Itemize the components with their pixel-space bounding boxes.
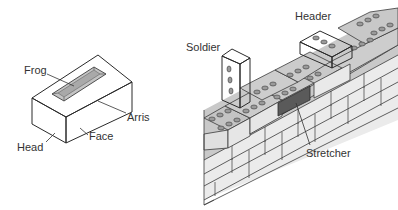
brick-diagram: Frog Arris Face Head [0,0,398,210]
face-leader [80,128,88,135]
arris-leader [98,101,126,113]
frog-leader [47,74,74,86]
label-frog: Frog [24,64,47,76]
single-brick: Frog Arris Face Head [17,55,150,153]
frog-recess [52,67,106,101]
label-arris: Arris [127,111,150,123]
label-head: Head [17,141,43,153]
brick-wall: Soldier Header Stretcher [186,8,398,205]
brick-head-face [32,98,66,143]
label-header: Header [295,10,331,22]
label-face: Face [89,130,113,142]
label-soldier: Soldier [186,41,221,53]
label-stretcher: Stretcher [306,147,351,159]
